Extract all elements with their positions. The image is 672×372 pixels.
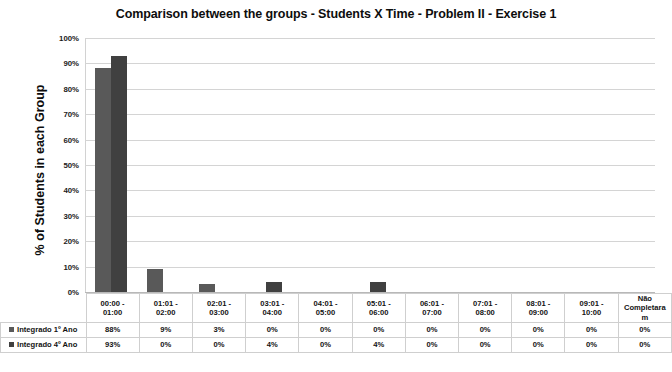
bar-group [500,38,552,292]
table-column-header: 09:01 - 10:00 [565,294,618,323]
table-value-cell: 0% [192,337,245,352]
y-axis-tick-label: 90% [63,59,79,68]
table-value-cell: 9% [139,322,192,337]
table-value-cell: 0% [618,322,671,337]
table-column-header: Não Completara m [618,294,671,323]
y-axis-tick-label: 20% [63,237,79,246]
table-value-cell: 0% [512,322,565,337]
table-row: Integrado 1º Ano88%9%3%0%0%0%0%0%0%0%0% [1,322,672,337]
table-value-cell: 0% [565,322,618,337]
table-value-cell: 0% [405,337,458,352]
bar-group [344,38,396,292]
table-value-cell: 88% [86,322,139,337]
table-value-cell: 0% [246,322,299,337]
bar [266,282,282,292]
bar [147,269,163,292]
table-column-header: 05:01 - 06:00 [352,294,405,323]
bar-group [396,38,448,292]
y-axis-tick-label: 10% [63,262,79,271]
bar-group [448,38,500,292]
table-column-header: 06:01 - 07:00 [405,294,458,323]
table-column-header: 04:01 - 05:00 [299,294,352,323]
table-value-cell: 0% [618,337,671,352]
table-value-cell: 4% [352,337,405,352]
table-value-cell: 0% [299,337,352,352]
legend-label: Integrado 4º Ano [17,340,77,349]
y-axis-label: % of Students in each Group [33,45,47,295]
plot-area: 100%90%80%70%60%50%40%30%20%10%0% [85,38,655,292]
table-column-header: 01:01 - 02:00 [139,294,192,323]
bar-chart: Comparison between the groups - Students… [0,0,672,372]
y-axis-tick-label: 40% [63,186,79,195]
y-axis-tick-label: 60% [63,135,79,144]
y-axis-tick-label: 70% [63,110,79,119]
bar-group [292,38,344,292]
y-axis-tick-label: 80% [63,84,79,93]
table-value-cell: 3% [192,322,245,337]
bar-group [85,38,137,292]
bar-group [189,38,241,292]
table-column-header: 00:00 - 01:00 [86,294,139,323]
bar [111,56,127,292]
table-column-header: 02:01 - 03:00 [192,294,245,323]
table-column-header: 08:01 - 09:00 [512,294,565,323]
bar-group [137,38,189,292]
legend-swatch-icon [9,342,14,347]
table-column-header: 03:01 - 04:00 [246,294,299,323]
table-row: Integrado 4º Ano93%0%0%4%0%4%0%0%0%0%0% [1,337,672,352]
bar [95,68,111,292]
chart-title: Comparison between the groups - Students… [0,7,672,21]
legend-entry[interactable]: Integrado 1º Ano [1,322,87,337]
table-value-cell: 0% [139,337,192,352]
table-column-header: 07:01 - 08:00 [459,294,512,323]
table-header-row: 00:00 - 01:0001:01 - 02:0002:01 - 03:000… [1,294,672,323]
table-value-cell: 0% [459,322,512,337]
bar-group [603,38,655,292]
bar-group [240,38,292,292]
y-axis-tick-label: 100% [59,34,79,43]
table-value-cell: 0% [299,322,352,337]
table-value-cell: 0% [405,322,458,337]
legend-entry[interactable]: Integrado 4º Ano [1,337,87,352]
bar-group [551,38,603,292]
table-value-cell: 0% [459,337,512,352]
table-value-cell: 0% [565,337,618,352]
y-axis-tick-label: 30% [63,211,79,220]
data-table: 00:00 - 01:0001:01 - 02:0002:01 - 03:000… [0,293,672,353]
legend-swatch-icon [9,327,14,332]
table-value-cell: 0% [512,337,565,352]
bar [370,282,386,292]
table-value-cell: 0% [352,322,405,337]
table-value-cell: 4% [246,337,299,352]
table-corner-cell [1,294,87,323]
bars-layer [85,38,655,292]
y-axis-tick-label: 50% [63,161,79,170]
bar [199,284,215,292]
table-value-cell: 93% [86,337,139,352]
legend-label: Integrado 1º Ano [17,325,77,334]
